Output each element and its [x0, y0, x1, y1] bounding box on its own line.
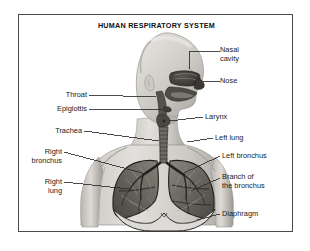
label-nose: Nose — [220, 76, 237, 85]
label-larynx: Larynx — [205, 112, 227, 121]
label-left-lung: Left lung — [215, 133, 243, 142]
diagram-frame: HUMAN RESPIRATORY SYSTEM — [18, 14, 293, 232]
label-diaphragm: Diaphragm — [222, 209, 258, 218]
trachea-group — [159, 127, 168, 163]
label-trachea: Trachea — [27, 126, 82, 135]
label-left-bronchus: Left bronchus — [222, 151, 267, 160]
trachea-shape — [159, 127, 168, 163]
label-branch-of-bronchus: Branch of the bronchus — [222, 172, 265, 190]
respiratory-system-figure: HUMAN RESPIRATORY SYSTEM — [0, 0, 310, 251]
anatomy-illustration — [19, 15, 294, 233]
label-right-lung: Right lung — [19, 177, 62, 195]
label-throat: Throat — [39, 90, 87, 99]
label-nasal-cavity: Nasal cavity — [220, 45, 239, 63]
leader-left-lung — [187, 138, 213, 142]
label-right-bronchus: Right bronchus — [19, 147, 62, 165]
label-epiglottis: Epiglottis — [29, 104, 87, 113]
